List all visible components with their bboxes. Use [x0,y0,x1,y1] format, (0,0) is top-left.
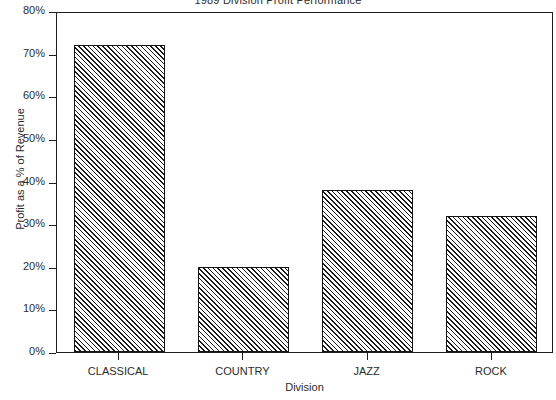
y-axis-tick-label: 70% [23,47,45,59]
y-axis-tick-label: 60% [23,89,45,101]
chart-title: 1989 Division Profit Performance [0,0,556,6]
x-axis-tick-label: CLASSICAL [88,365,149,377]
y-axis-tick-label: 80% [23,4,45,16]
y-axis-tick-label: 40% [23,175,45,187]
y-axis-tick-mark [49,55,56,56]
y-axis-tick-mark [49,140,56,141]
plot-area [57,13,552,352]
bar-classical [74,45,165,352]
y-axis-tick-mark [49,183,56,184]
y-axis-tick-mark [49,225,56,226]
plot-frame [56,12,553,353]
y-axis-tick-label: 10% [23,302,45,314]
y-axis-tick-label: 0% [29,345,45,357]
y-axis-tick-mark [49,310,56,311]
x-axis-tick-mark [367,353,368,360]
x-axis-title: Division [56,381,553,393]
y-axis-tick-mark [49,268,56,269]
x-axis-tick-mark [242,353,243,360]
y-axis-tick-label: 20% [23,260,45,272]
y-axis-tick-mark [49,12,56,13]
x-axis-tick-label: COUNTRY [215,365,269,377]
y-axis-tick-label: 30% [23,217,45,229]
x-axis-tick-label: JAZZ [353,365,379,377]
x-axis-tick-mark [118,353,119,360]
bar-jazz [322,190,413,352]
y-axis-tick-mark [49,353,56,354]
bar-chart: 1989 Division Profit Performance Profit … [0,0,556,400]
y-axis-tick-mark [49,97,56,98]
bar-rock [446,216,537,352]
bar-country [198,267,289,352]
x-axis-tick-mark [491,353,492,360]
y-axis-tick-label: 50% [23,132,45,144]
x-axis-tick-label: ROCK [475,365,507,377]
